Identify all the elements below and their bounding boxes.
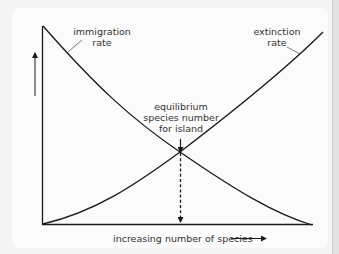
immigration-label-line-1: immigration bbox=[70, 26, 134, 37]
equilibrium-label-line-2: species number bbox=[140, 112, 222, 123]
page-background: immigration rate extinction rate equilib… bbox=[0, 0, 339, 254]
extinction-label-line-2: rate bbox=[244, 37, 310, 48]
extinction-leader-line bbox=[287, 47, 300, 54]
extinction-rate-label: extinction rate bbox=[244, 26, 310, 48]
equilibrium-label-line-1: equilibrium bbox=[140, 101, 222, 112]
immigration-rate-label: immigration rate bbox=[70, 26, 134, 48]
equilibrium-label: equilibrium species number for island bbox=[140, 101, 222, 134]
x-axis-label: increasing number of species bbox=[113, 233, 253, 244]
equilibrium-label-line-3: for island bbox=[140, 123, 222, 134]
extinction-label-line-1: extinction bbox=[244, 26, 310, 37]
immigration-label-line-2: rate bbox=[70, 37, 134, 48]
